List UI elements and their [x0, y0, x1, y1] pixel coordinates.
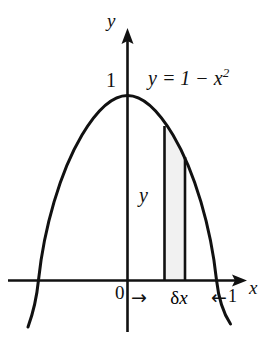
delta-x-variable: x [179, 287, 187, 308]
equation-body: y = 1 − x [148, 67, 223, 89]
delta-symbol: δ [170, 287, 179, 308]
delta-x-label: δx [170, 288, 187, 307]
strip-height-label: y [139, 185, 148, 205]
delta-x-annotation: → δx ← [131, 285, 227, 309]
origin-label: 0 [115, 283, 125, 302]
equation-exponent: 2 [223, 65, 230, 80]
arrow-right-icon: → [131, 288, 147, 307]
y-axis-tick-label-one: 1 [106, 70, 116, 90]
x-axis-tick-label-one: 1 [228, 287, 237, 305]
arrow-left-icon: ← [211, 288, 227, 307]
equation-label: y = 1 − x2 [148, 66, 229, 88]
x-axis-label: x [249, 278, 257, 297]
y-axis-label: y [107, 11, 115, 30]
